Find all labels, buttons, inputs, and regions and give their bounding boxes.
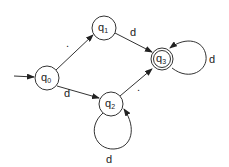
automaton-diagram: . d d . d d q0 q1 q2 q3 [0, 0, 229, 167]
edge-label-q0-q2: d [64, 87, 70, 99]
start-arrow [14, 76, 34, 77]
edge-label-q2-q3: . [137, 81, 140, 93]
state-q0: q0 [35, 66, 59, 90]
state-q3-accepting: q3 [151, 48, 173, 70]
edge-label-q2-loop: d [106, 153, 112, 165]
edge-q3-loop [170, 41, 206, 74]
edge-label-q0-q1: . [66, 37, 69, 49]
state-q2: q2 [99, 92, 123, 116]
edge-label-q3-loop: d [209, 53, 215, 65]
edge-q0-q1 [56, 35, 93, 70]
edge-label-q1-q3: d [130, 26, 136, 38]
state-q1: q1 [92, 16, 116, 40]
edge-q2-q3 [120, 69, 152, 96]
